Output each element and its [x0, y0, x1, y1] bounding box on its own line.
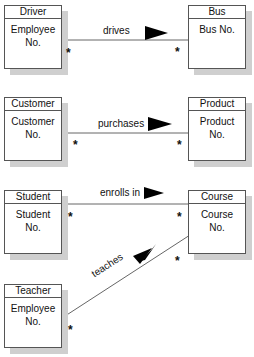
attribute-line: No.	[189, 128, 245, 141]
entity-student[interactable]: Student Student No.	[4, 190, 62, 254]
entity-attribute: Course No.	[189, 204, 245, 234]
enrolls-direction-arrow-icon	[144, 187, 164, 199]
entity-bus[interactable]: Bus Bus No.	[188, 5, 246, 69]
entity-course[interactable]: Course Course No.	[188, 190, 246, 254]
entity-attribute: Employee No.	[5, 298, 61, 328]
relationship-label-drives: drives	[103, 25, 130, 37]
attribute-line: No.	[5, 128, 61, 141]
attribute-line: No.	[5, 221, 61, 234]
entity-teacher[interactable]: Teacher Employee No.	[4, 284, 62, 348]
multiplicity-star: *	[68, 325, 73, 335]
multiplicity-star: *	[175, 256, 180, 266]
attribute-line: Employee	[5, 302, 61, 315]
entity-customer[interactable]: Customer Customer No.	[4, 97, 62, 161]
entity-product[interactable]: Product Product No.	[188, 97, 246, 161]
entity-title: Course	[189, 191, 245, 204]
relationship-label-purchases: purchases	[98, 118, 144, 130]
attribute-line: No.	[189, 221, 245, 234]
attribute-line: Product	[189, 115, 245, 128]
entity-driver[interactable]: Driver Employee No.	[4, 5, 62, 69]
entity-attribute: Customer No.	[5, 111, 61, 141]
teaches-connector	[62, 235, 190, 318]
attribute-line: Employee	[5, 23, 61, 36]
multiplicity-star: *	[68, 212, 73, 222]
attribute-line: No.	[5, 36, 61, 49]
multiplicity-star: *	[175, 47, 180, 57]
entity-title: Teacher	[5, 285, 61, 298]
attribute-line: Student	[5, 208, 61, 221]
attribute-line: Course	[189, 208, 245, 221]
entity-title: Product	[189, 98, 245, 111]
multiplicity-star: *	[73, 140, 78, 150]
entity-title: Bus	[189, 6, 245, 19]
attribute-line: Bus No.	[189, 23, 245, 36]
entity-title: Student	[5, 191, 61, 204]
multiplicity-star: *	[177, 212, 182, 222]
entity-attribute: Product No.	[189, 111, 245, 141]
entity-title: Driver	[5, 6, 61, 19]
attribute-line: No.	[5, 315, 61, 328]
entity-attribute: Employee No.	[5, 19, 61, 49]
drives-direction-arrow-icon	[145, 26, 168, 40]
attribute-line: Customer	[5, 115, 61, 128]
purchases-direction-arrow-icon	[148, 117, 172, 131]
multiplicity-star: *	[66, 48, 71, 58]
entity-title: Customer	[5, 98, 61, 111]
entity-attribute: Bus No.	[189, 19, 245, 36]
relationship-label-enrolls-in: enrolls in	[100, 187, 140, 199]
multiplicity-star: *	[177, 140, 182, 150]
entity-attribute: Student No.	[5, 204, 61, 234]
